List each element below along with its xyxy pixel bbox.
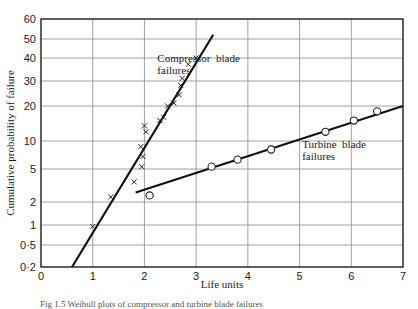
y-tick-label: 60 — [24, 13, 36, 25]
y-tick-label: 1 — [30, 219, 36, 231]
x-tick-label: 5 — [297, 270, 303, 282]
x-tick-label: 7 — [400, 270, 406, 282]
x-tick-label: 2 — [141, 270, 147, 282]
fit-line — [72, 35, 213, 267]
y-tick-label: 2 — [30, 196, 36, 208]
circle-marker — [146, 192, 153, 199]
cross-marker — [138, 144, 143, 149]
circle-marker — [234, 156, 241, 163]
circle-marker — [350, 117, 357, 124]
y-tick-label: 10 — [24, 135, 36, 147]
x-tick-label: 1 — [90, 270, 96, 282]
figure-caption: Fig 1.5 Weibull plots of compressor and … — [40, 299, 263, 309]
series-label: Turbine blade — [302, 138, 366, 150]
cross-marker — [180, 76, 185, 81]
y-axis-label: Cumulative probability of failure — [4, 70, 16, 216]
series-label: failures — [157, 64, 190, 76]
y-axis-tick-labels: 0·20·5125102030405060 — [20, 13, 36, 273]
circle-marker — [374, 108, 381, 115]
circle-marker — [268, 146, 275, 153]
x-tick-label: 6 — [348, 270, 354, 282]
series-label: Compressor blade — [157, 52, 240, 64]
fit-lines — [72, 35, 403, 267]
circle-marker — [322, 128, 329, 135]
y-tick-label: 20 — [24, 100, 36, 112]
y-tick-label: 5 — [30, 163, 36, 175]
x-tick-label: 0 — [38, 270, 44, 282]
y-tick-label: 0·5 — [20, 239, 36, 251]
y-tick-label: 30 — [24, 75, 36, 87]
x-tick-label: 4 — [245, 270, 251, 282]
circle-marker — [208, 163, 215, 170]
series-annotations: Compressor bladefailuresTurbine bladefai… — [157, 52, 366, 162]
y-tick-label: 40 — [24, 52, 36, 64]
x-tick-label: 3 — [193, 270, 199, 282]
y-tick-label: 0·2 — [20, 261, 36, 273]
cross-marker — [139, 164, 144, 169]
y-tick-label: 50 — [24, 33, 36, 45]
series-label: failures — [302, 150, 335, 162]
cross-marker — [108, 194, 113, 199]
x-axis-label: Life units — [201, 278, 243, 290]
cross-marker — [132, 179, 137, 184]
